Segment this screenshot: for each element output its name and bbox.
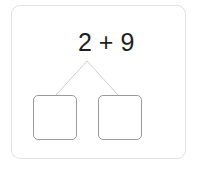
answer-box-right[interactable]	[98, 95, 142, 140]
answer-box-left[interactable]	[33, 95, 77, 140]
expression-text: 2 + 9	[78, 27, 168, 57]
